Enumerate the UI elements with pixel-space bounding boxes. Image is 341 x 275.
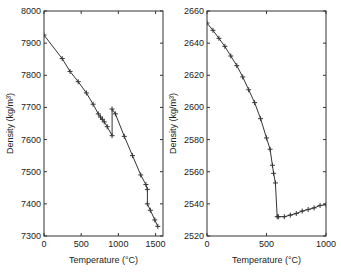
plus-marker-icon bbox=[324, 202, 329, 207]
plus-marker-icon bbox=[288, 213, 293, 218]
y-tick-label: 7700 bbox=[21, 102, 41, 112]
data-series bbox=[42, 33, 161, 229]
plus-marker-icon bbox=[318, 203, 323, 208]
plus-marker-icon bbox=[152, 217, 157, 222]
plus-marker-icon bbox=[268, 147, 273, 152]
plus-marker-icon bbox=[145, 187, 150, 192]
y-tick-label: 7800 bbox=[21, 70, 41, 80]
x-tick-label: 1500 bbox=[146, 239, 166, 249]
plus-marker-icon bbox=[130, 153, 135, 158]
y-tick-label: 8000 bbox=[21, 6, 41, 16]
y-tick-label: 2640 bbox=[184, 38, 204, 48]
plus-marker-icon bbox=[148, 208, 153, 213]
plus-marker-icon bbox=[228, 54, 233, 59]
plus-marker-icon bbox=[234, 63, 239, 68]
data-line bbox=[44, 35, 158, 226]
chart-canvas: 0500100015007300740075007600770078007900… bbox=[0, 0, 341, 275]
y-tick-label: 2600 bbox=[184, 102, 204, 112]
plus-marker-icon bbox=[91, 102, 96, 107]
y-axis-label: Density (kg/m³) bbox=[168, 93, 178, 154]
x-tick-label: 500 bbox=[259, 239, 274, 249]
plus-marker-icon bbox=[145, 201, 150, 206]
x-axis-label: Temperature (°C) bbox=[69, 255, 138, 265]
x-tick-label: 500 bbox=[74, 239, 89, 249]
x-tick-label: 0 bbox=[41, 239, 46, 249]
y-tick-label: 2660 bbox=[184, 6, 204, 16]
plus-marker-icon bbox=[110, 133, 115, 138]
x-axis-label: Temperature (°C) bbox=[232, 255, 301, 265]
plus-marker-icon bbox=[240, 74, 245, 79]
plus-marker-icon bbox=[282, 214, 287, 219]
plus-marker-icon bbox=[258, 116, 263, 121]
y-tick-label: 2580 bbox=[184, 135, 204, 145]
plus-marker-icon bbox=[252, 100, 257, 105]
plus-marker-icon bbox=[271, 171, 276, 176]
right-plot: 0500100025202540256025802600262026402660… bbox=[168, 6, 336, 265]
plus-marker-icon bbox=[273, 180, 278, 185]
y-tick-label: 7600 bbox=[21, 135, 41, 145]
y-tick-label: 2620 bbox=[184, 70, 204, 80]
y-tick-label: 2520 bbox=[184, 231, 204, 241]
plus-marker-icon bbox=[306, 207, 311, 212]
left-plot: 0500100015007300740075007600770078007900… bbox=[5, 6, 166, 265]
x-tick-label: 0 bbox=[204, 239, 209, 249]
plus-marker-icon bbox=[264, 135, 269, 140]
plus-marker-icon bbox=[155, 224, 160, 229]
plus-marker-icon bbox=[246, 87, 251, 92]
y-axis-label: Density (kg/m³) bbox=[5, 93, 15, 154]
y-tick-label: 2560 bbox=[184, 167, 204, 177]
y-tick-label: 7300 bbox=[21, 231, 41, 241]
plus-marker-icon bbox=[143, 182, 148, 187]
x-tick-label: 1000 bbox=[316, 239, 336, 249]
y-tick-label: 2540 bbox=[184, 199, 204, 209]
plus-marker-icon bbox=[105, 124, 110, 129]
y-tick-label: 7400 bbox=[21, 199, 41, 209]
plus-marker-icon bbox=[300, 209, 305, 214]
plus-marker-icon bbox=[122, 134, 127, 139]
y-tick-label: 7900 bbox=[21, 38, 41, 48]
plot-frame bbox=[44, 11, 163, 236]
plus-marker-icon bbox=[270, 163, 275, 168]
plus-marker-icon bbox=[138, 172, 143, 177]
y-tick-label: 7500 bbox=[21, 167, 41, 177]
plus-marker-icon bbox=[294, 211, 299, 216]
plus-marker-icon bbox=[312, 205, 317, 210]
x-tick-label: 1000 bbox=[108, 239, 128, 249]
data-series bbox=[205, 21, 329, 220]
data-line bbox=[207, 23, 326, 217]
